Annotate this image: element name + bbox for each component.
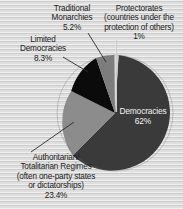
slice-label-protectorates: Protectorates (countries under the prote… xyxy=(96,4,182,42)
slice-label-line: protection of others) xyxy=(96,23,182,32)
slice-label-democracies: Democracies 62% xyxy=(112,106,174,126)
slice-label-line: Totalitarian Regimes xyxy=(0,162,114,171)
slice-label-percent: 62% xyxy=(112,116,174,126)
slice-label-line: (countries under the xyxy=(96,13,182,22)
slice-label-percent: 23.4% xyxy=(0,191,114,200)
slice-label-line: Democracies xyxy=(6,44,80,53)
slice-label-percent: 8.3% xyxy=(6,54,80,63)
slice-label-limited-democracies: Limited Democracies 8.3% xyxy=(6,35,80,63)
slice-label-line: Limited xyxy=(6,35,80,44)
slice-label-line: or dictatorships) xyxy=(0,181,114,190)
slice-label-line: Authoritarian/ xyxy=(0,153,114,162)
slice-label-line: Democracies xyxy=(112,106,174,116)
slice-label-percent: 1% xyxy=(96,32,182,41)
slice-label-line: Protectorates xyxy=(96,4,182,13)
slice-label-authoritarian-totalitarian-regimes: Authoritarian/ Totalitarian Regimes (oft… xyxy=(0,153,114,200)
slice-label-line: (often one-party states xyxy=(0,172,114,181)
pie-chart-figure: Traditional Monarchies 5.2% Protectorate… xyxy=(0,0,183,209)
